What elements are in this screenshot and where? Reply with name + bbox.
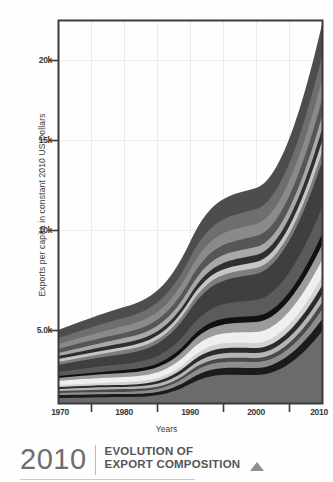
triangle-up-icon[interactable]	[250, 462, 264, 471]
y-tick-label-10k: 10k	[26, 225, 52, 235]
y-tick-label-group: 20k 15k 10k 5.0k	[20, 0, 52, 420]
x-tick-label-2000: 2000	[236, 407, 276, 417]
footer-title-line-2-row: EXPORT COMPOSITION	[105, 458, 265, 471]
footer-year: 2010	[20, 444, 95, 474]
x-tick-label-1980: 1980	[104, 407, 144, 417]
footer-inner: 2010 EVOLUTION OF EXPORT COMPOSITION	[20, 444, 264, 475]
x-tick-label-1970: 1970	[40, 407, 80, 417]
x-tick-label-2010: 2010	[299, 407, 333, 417]
footer-title-lines: EVOLUTION OF EXPORT COMPOSITION	[96, 444, 265, 471]
x-tick-label-group: 1970 1980 1990 2000 2010	[0, 407, 333, 423]
x-axis-label: Years	[0, 424, 333, 434]
y-tick-label-5k: 5.0k	[26, 325, 52, 335]
footer-title-line-1: EVOLUTION OF	[105, 445, 265, 458]
y-tick-label-20k: 20k	[26, 55, 52, 65]
x-tick-label-1990: 1990	[170, 407, 210, 417]
footer-rule	[20, 479, 195, 480]
chart-container: Exports per capita in constant 2010 US D…	[0, 0, 333, 420]
page-root: Exports per capita in constant 2010 US D…	[0, 0, 333, 482]
y-tick-label-15k: 15k	[26, 135, 52, 145]
footer-title-block: 2010 EVOLUTION OF EXPORT COMPOSITION	[0, 444, 333, 482]
footer-title-line-2: EXPORT COMPOSITION	[105, 458, 241, 471]
